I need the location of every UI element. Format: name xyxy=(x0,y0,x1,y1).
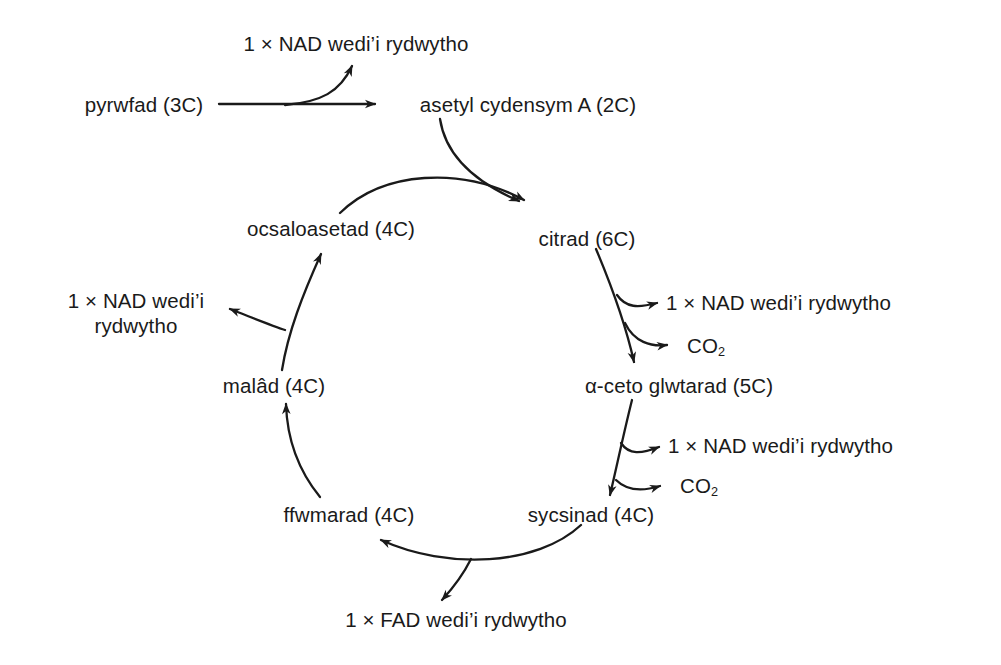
node-asetyl-cydensym-a: asetyl cydensym A (2C) xyxy=(420,92,636,117)
node-citrad: citrad (6C) xyxy=(539,226,636,251)
krebs-cycle-diagram: pyrwfad (3C) asetyl cydensym A (2C) citr… xyxy=(0,0,1001,665)
arrow-malad-nad-branch xyxy=(230,309,285,330)
co2-citrad-text: CO xyxy=(687,334,718,357)
product-fad-sycsinad-step: 1 × FAD wedi’i rydwytho xyxy=(345,607,567,632)
arrow-alphaketo-nad-branch xyxy=(621,443,659,452)
node-malad: malâd (4C) xyxy=(223,373,325,398)
arrow-sycsinad-fad-branch xyxy=(442,559,471,600)
co2-alphaketo-text: CO xyxy=(680,474,711,497)
node-ocsaloasetad: ocsaloasetad (4C) xyxy=(247,216,415,241)
product-co2-alphaketo-step: CO2 xyxy=(680,473,718,504)
arrow-citrad-co2-branch xyxy=(625,323,667,345)
node-alpha-ceto-glwtarad: α-ceto glwtarad (5C) xyxy=(585,373,773,398)
arrow-ocsaloasetad-to-citrad xyxy=(340,178,524,213)
product-co2-citrad-step: CO2 xyxy=(687,333,725,364)
arrow-pyrwfad-nad-branch xyxy=(285,66,352,105)
node-sycsinad: sycsinad (4C) xyxy=(528,502,655,527)
node-pyrwfad: pyrwfad (3C) xyxy=(85,92,204,117)
product-nad-malad-step: 1 × NAD wedi’i rydwytho xyxy=(46,288,226,338)
co2-citrad-subscript: 2 xyxy=(718,344,725,359)
product-nad-pyrwfad-step: 1 × NAD wedi’i rydwytho xyxy=(243,31,468,56)
co2-alphaketo-subscript: 2 xyxy=(711,484,718,499)
arrow-sycsinad-to-ffwmarad xyxy=(381,525,581,560)
arrow-alphaketo-co2-branch xyxy=(616,480,660,490)
arrow-asetyl-to-citrad xyxy=(440,119,519,201)
arrow-malad-to-ocsaloasetad xyxy=(282,254,321,370)
product-nad-alphaketo-step: 1 × NAD wedi’i rydwytho xyxy=(668,433,893,458)
nad-malad-line-1: 1 × NAD wedi’i xyxy=(68,289,204,312)
product-nad-citrad-step: 1 × NAD wedi’i rydwytho xyxy=(666,290,891,315)
arrow-citrad-nad-branch xyxy=(617,295,657,306)
arrow-alphaketo-to-sycsinad xyxy=(610,400,632,495)
nad-malad-line-2: rydwytho xyxy=(95,314,178,337)
arrow-ffwmarad-to-malad xyxy=(286,404,320,497)
node-ffwmarad: ffwmarad (4C) xyxy=(284,502,415,527)
